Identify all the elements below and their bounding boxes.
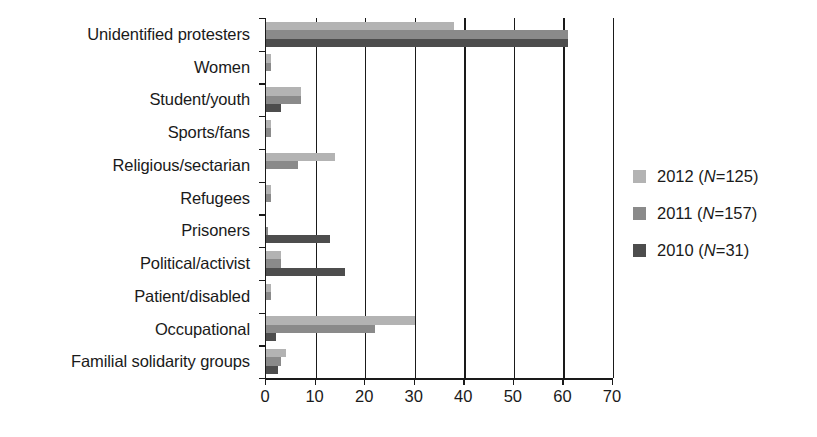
legend-label: 2010 (N=31): [657, 241, 749, 260]
y-axis-tick: [259, 247, 266, 248]
x-axis-tick-label: 10: [305, 387, 323, 406]
gridline: [613, 18, 614, 378]
bar-2010: [266, 104, 281, 112]
bar-2010: [266, 366, 278, 374]
chart-legend: 2012 (N=125)2011 (N=157)2010 (N=31): [633, 158, 813, 269]
x-axis-tick-label: 70: [603, 387, 621, 406]
y-axis-tick: [259, 18, 266, 19]
legend-n-value: 125: [725, 167, 753, 185]
x-axis-tick: [364, 378, 365, 385]
x-axis-tick-label: 50: [504, 387, 522, 406]
bar-2010: [266, 268, 345, 276]
legend-swatch-icon: [633, 244, 646, 257]
bar-2011: [266, 325, 375, 333]
x-axis-tick-label: 60: [553, 387, 571, 406]
legend-year: 2012: [657, 167, 694, 185]
y-axis-label: Political/activist: [140, 247, 250, 280]
y-axis-label: Women: [194, 51, 250, 84]
y-axis-tick: [259, 280, 266, 281]
bar-2011: [266, 259, 281, 267]
legend-label: 2012 (N=125): [657, 167, 758, 186]
bar-2011: [266, 292, 271, 300]
bar-2011: [266, 227, 268, 235]
bar-group: [266, 18, 613, 51]
x-axis-tick: [562, 378, 563, 385]
legend-label: 2011 (N=157): [657, 204, 757, 223]
x-axis-tick: [414, 378, 415, 385]
bar-group: [266, 149, 613, 182]
bar-2012: [266, 185, 271, 193]
legend-n-value: 157: [724, 204, 752, 222]
y-axis-tick: [259, 51, 266, 52]
bar-2010: [266, 39, 568, 47]
y-axis-label: Sports/fans: [168, 116, 250, 149]
plot-area: [265, 18, 613, 378]
bar-2010: [266, 235, 330, 243]
y-axis-tick: [259, 83, 266, 84]
bar-2011: [266, 357, 281, 365]
y-axis-tick: [259, 345, 266, 346]
bar-group: [266, 280, 613, 313]
bar-2011: [266, 96, 301, 104]
x-axis-tick-label: 40: [454, 387, 472, 406]
x-axis-tick: [513, 378, 514, 385]
legend-year: 2011: [657, 204, 692, 222]
bar-group: [266, 51, 613, 84]
legend-n-symbol: N: [703, 204, 715, 222]
legend-n-symbol: N: [704, 241, 716, 259]
bar-2012: [266, 251, 281, 259]
x-axis-tick: [265, 378, 266, 385]
legend-n-symbol: N: [704, 167, 716, 185]
bar-2012: [266, 284, 271, 292]
bar-2012: [266, 316, 415, 324]
legend-swatch-icon: [633, 207, 646, 220]
y-axis-tick: [259, 116, 266, 117]
bar-2011: [266, 161, 298, 169]
bar-group: [266, 214, 613, 247]
x-axis-tick: [315, 378, 316, 385]
x-axis-tick-label: 0: [260, 387, 269, 406]
y-axis-label: Patient/disabled: [134, 280, 250, 313]
legend-swatch-icon: [633, 170, 646, 183]
bar-2012: [266, 120, 271, 128]
bar-group: [266, 182, 613, 215]
x-axis-tick: [463, 378, 464, 385]
y-axis-label: Unidentified protesters: [87, 18, 250, 51]
y-axis-tick: [259, 214, 266, 215]
bar-2011: [266, 194, 271, 202]
legend-n-value: 31: [725, 241, 743, 259]
bar-group: [266, 83, 613, 116]
legend-year: 2010: [657, 241, 694, 259]
bar-2011: [266, 128, 271, 136]
bar-2012: [266, 349, 286, 357]
bar-2010: [266, 333, 276, 341]
y-axis-label: Refugees: [180, 182, 250, 215]
bar-2011: [266, 63, 271, 71]
bar-2012: [266, 54, 271, 62]
bar-chart-figure: Unidentified protestersWomenStudent/yout…: [0, 0, 817, 437]
bar-group: [266, 345, 613, 378]
x-axis-tick-label: 20: [355, 387, 373, 406]
bar-group: [266, 116, 613, 149]
x-axis-tick: [612, 378, 613, 385]
y-axis-label: Religious/sectarian: [112, 149, 250, 182]
bar-group: [266, 313, 613, 346]
legend-item-2011[interactable]: 2011 (N=157): [633, 195, 813, 232]
y-axis-tick: [259, 182, 266, 183]
y-axis-label: Prisoners: [181, 214, 250, 247]
y-axis-tick: [259, 313, 266, 314]
x-axis-tick-label: 30: [405, 387, 423, 406]
y-axis-category-labels: Unidentified protestersWomenStudent/yout…: [0, 18, 258, 378]
bar-2012: [266, 87, 301, 95]
bar-2011: [266, 30, 568, 38]
legend-item-2010[interactable]: 2010 (N=31): [633, 232, 813, 269]
y-axis-label: Familial solidarity groups: [71, 345, 250, 378]
x-axis: 010203040506070: [265, 378, 612, 380]
bar-2012: [266, 153, 335, 161]
bar-2012: [266, 22, 454, 30]
bar-group: [266, 247, 613, 280]
y-axis-label: Student/youth: [149, 83, 250, 116]
y-axis-tick: [259, 149, 266, 150]
y-axis-label: Occupational: [155, 313, 250, 346]
legend-item-2012[interactable]: 2012 (N=125): [633, 158, 813, 195]
